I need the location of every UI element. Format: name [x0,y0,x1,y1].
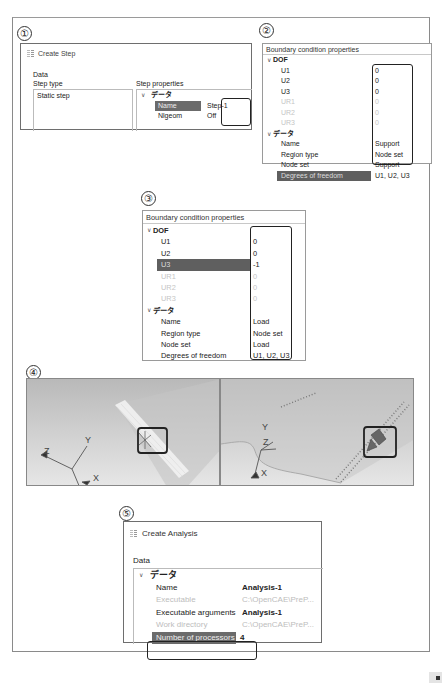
dof-key: UR1 [161,271,176,282]
group-label: DOF [273,55,288,66]
create-step-dialog: Create Step Data Step type Step properti… [20,43,252,130]
property-key: Executable [156,594,196,607]
dof-key: U1 [281,66,290,77]
property-row-work-directory: Work directoryC:\OpenCAE\PreP... [134,619,323,632]
group-label: データ [150,569,177,582]
step-number-3: ③ [141,191,156,206]
property-key: Name [155,101,201,112]
step-type-label: Step type [33,80,63,87]
data-key: Degrees of freedom [161,350,226,361]
data-label: Data [33,71,48,78]
viewport-right[interactable]: Z X Y [220,378,414,486]
step-number-5: ⑤ [119,506,134,521]
group-label: データ [273,129,294,140]
highlight-box [250,226,292,360]
data-key: Region type [161,328,200,339]
property-value[interactable]: Analysis-1 [242,582,282,595]
data-key: Node set [161,339,191,350]
data-key: Region type [281,150,318,161]
dof-key: U2 [281,76,290,87]
property-key: Name [156,582,177,595]
chevron-down-icon[interactable]: ∨ [141,90,149,101]
svg-text:Y: Y [85,435,91,445]
viewport-left[interactable]: Z X Y [26,378,220,486]
panel-header: Boundary condition properties [263,44,431,55]
dof-key: UR2 [161,282,176,293]
group-label: DOF [153,225,169,236]
dof-key: UR3 [161,293,176,304]
highlight-box [372,64,413,165]
app-icon [130,530,138,537]
app-icon [27,50,35,57]
svg-text:X: X [261,468,267,478]
data-value[interactable]: U1, U2, U3 [375,171,410,182]
panel-header: Boundary condition properties [143,211,305,224]
property-row-executable-arguments[interactable]: Executable argumentsAnalysis-1 [134,607,323,620]
dof-key: UR3 [281,118,295,129]
property-value: C:\OpenCAE\PreP... [242,619,314,632]
group-label: データ [151,90,172,101]
svg-text:Z: Z [44,446,50,456]
property-key: Work directory [156,619,207,632]
dialog-title-text: Create Analysis [142,529,198,538]
step-properties-label: Step properties [136,80,183,87]
dialog-title: Create Step [27,50,75,57]
dialog-title-text: Create Step [38,50,75,57]
dialog-title: Create Analysis [130,529,198,538]
data-key: Name [161,316,181,327]
property-value[interactable]: Off [207,111,216,122]
property-row-executable: ExecutableC:\OpenCAE\PreP... [134,594,323,607]
dof-key: U1 [161,236,170,247]
svg-text:Y: Y [262,422,268,432]
data-label: Data [133,556,150,565]
create-analysis-dialog: Create Analysis Data ∨ データ NameAnalysis-… [123,521,322,643]
highlight-box [147,641,257,660]
property-value: C:\OpenCAE\PreP... [242,594,314,607]
step-number-1: ① [17,26,32,41]
page-corner-mark [429,672,442,683]
dof-key: U2 [161,248,170,259]
dof-key: UR1 [281,97,295,108]
data-key: Degrees of freedom [277,171,371,182]
dof-key: UR2 [281,108,295,119]
property-value[interactable]: Analysis-1 [242,607,282,620]
group-row[interactable]: ∨ データ [134,569,323,582]
step-type-item[interactable]: Static step [37,92,129,99]
property-row-name[interactable]: NameAnalysis-1 [134,582,323,595]
highlight-box [221,98,251,126]
analysis-properties-grid: ∨ データ NameAnalysis-1 ExecutableC:\OpenCA… [133,568,323,644]
chevron-down-icon[interactable]: ∨ [139,569,147,582]
group-label: データ [153,305,174,316]
svg-text:Z: Z [263,437,269,447]
property-key: Executable arguments [156,607,236,620]
data-key: Name [281,139,300,150]
dof-key: U3 [157,259,251,270]
dof-key: U3 [281,87,290,98]
svg-text:X: X [93,473,99,483]
step-type-list[interactable]: Static step [33,89,133,131]
data-key: Node set [281,160,309,171]
data-row-selected[interactable]: Degrees of freedomU1, U2, U3 [263,171,431,182]
step-number-2: ② [259,23,274,38]
property-key: Nlgeom [158,111,182,122]
